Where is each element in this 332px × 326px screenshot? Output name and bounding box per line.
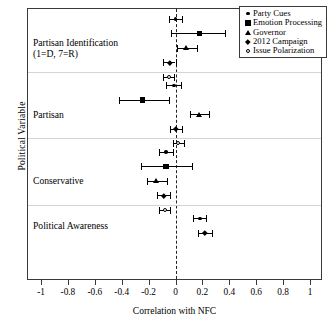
confidence-interval-cap [167, 178, 168, 185]
x-axis-tick [122, 280, 123, 285]
marker-diamond [203, 230, 208, 235]
confidence-interval-cap [193, 215, 194, 222]
data-point-row [0, 191, 332, 201]
confidence-interval-cap [182, 126, 183, 133]
confidence-interval-cap [182, 16, 183, 23]
confidence-interval-cap [190, 111, 191, 118]
marker-square [197, 31, 202, 36]
confidence-interval-cap [181, 82, 182, 89]
x-axis-tick-label: 0.4 [214, 287, 244, 297]
legend-marker-triangle [243, 30, 253, 35]
confidence-interval-cap [177, 45, 178, 52]
marker-circle-small [198, 217, 202, 221]
confidence-interval-cap [147, 178, 148, 185]
confidence-interval-cap [206, 215, 207, 222]
x-axis-tick-label: 0.6 [241, 287, 271, 297]
confidence-interval-cap [198, 230, 199, 237]
marker-open-circle [163, 208, 167, 212]
x-axis-tick [256, 280, 257, 285]
marker-triangle [153, 178, 159, 183]
marker-square [140, 97, 145, 102]
group-separator [28, 72, 321, 73]
x-axis-tick-label: 0.2 [187, 287, 217, 297]
x-axis-tick [229, 280, 230, 285]
legend-marker-diamond [243, 40, 253, 44]
confidence-interval-cap [197, 45, 198, 52]
confidence-interval-cap [170, 192, 171, 199]
marker-open-circle [176, 141, 180, 145]
data-point-row [0, 176, 332, 186]
data-point-row [0, 228, 332, 238]
forest-plot-chart: Political Variable Partisan Identificati… [0, 0, 332, 326]
confidence-interval-cap [163, 59, 164, 66]
marker-diamond [168, 60, 173, 65]
x-axis-tick-label: 0.8 [268, 287, 298, 297]
marker-circle-small [164, 150, 168, 154]
legend-label: Issue Polarization [253, 46, 314, 55]
x-axis-tick [41, 280, 42, 285]
marker-open-circle [167, 75, 171, 79]
confidence-interval-cap [157, 192, 158, 199]
confidence-interval-cap [169, 97, 170, 104]
confidence-interval-cap [170, 126, 171, 133]
confidence-interval-cap [169, 16, 170, 23]
legend-marker-open-circle [243, 49, 253, 53]
data-point-row [0, 162, 332, 172]
marker-circle-small [172, 84, 176, 88]
x-axis-tick-label: -0.4 [107, 287, 137, 297]
data-point-row [0, 95, 332, 105]
data-point-row [0, 110, 332, 120]
confidence-interval-cap [212, 230, 213, 237]
x-axis-tick [310, 280, 311, 285]
x-axis-tick [95, 280, 96, 285]
confidence-interval-cap [209, 111, 210, 118]
marker-diamond [161, 193, 166, 198]
data-point-row [0, 214, 332, 224]
confidence-interval-cap [225, 30, 226, 37]
marker-diamond [173, 126, 178, 131]
x-axis-tick-label: -0.2 [134, 287, 164, 297]
legend-marker-square [243, 20, 253, 25]
confidence-interval-cap [192, 163, 193, 170]
marker-circle-small [174, 17, 178, 21]
confidence-interval-cap [119, 97, 120, 104]
group-separator [28, 205, 321, 206]
x-axis-tick-label: 0 [161, 287, 191, 297]
data-point-row [0, 81, 332, 91]
x-axis-tick [176, 280, 177, 285]
marker-square [163, 164, 168, 169]
confidence-interval-cap [166, 82, 167, 89]
x-axis-tick-label: -0.6 [80, 287, 110, 297]
x-axis-tick-label: -0.8 [53, 287, 83, 297]
legend-marker-circle-small [243, 12, 253, 16]
confidence-interval-cap [173, 149, 174, 156]
x-axis-tick [202, 280, 203, 285]
x-axis-tick [283, 280, 284, 285]
confidence-interval-cap [159, 149, 160, 156]
confidence-interval-cap [141, 163, 142, 170]
chart-legend: Party CuesEmotion ProcessingGovernor2012… [239, 6, 327, 58]
legend-item: Issue Polarization [243, 46, 322, 55]
confidence-interval-cap [176, 59, 177, 66]
x-axis-title: Correlation with NFC [27, 306, 322, 316]
marker-triangle [183, 45, 189, 50]
x-axis-tick [68, 280, 69, 285]
x-axis-tick-label: 1 [295, 287, 325, 297]
group-separator [28, 138, 321, 139]
data-point-row [0, 147, 332, 157]
data-point-row [0, 124, 332, 134]
marker-triangle [196, 112, 202, 117]
data-point-row [0, 58, 332, 68]
confidence-interval-cap [171, 30, 172, 37]
x-axis-tick-label: -1 [26, 287, 56, 297]
x-axis-tick [149, 280, 150, 285]
